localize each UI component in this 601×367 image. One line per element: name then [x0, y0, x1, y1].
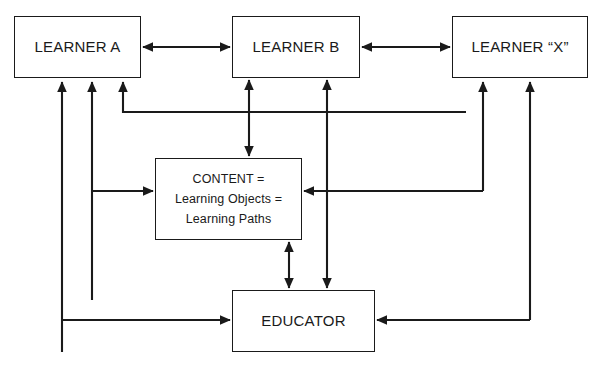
- node-learner-b-label: LEARNER B: [253, 39, 340, 55]
- node-content-label-line-2: Learning Objects =: [175, 189, 282, 209]
- node-educator[interactable]: EDUCATOR: [232, 290, 375, 352]
- edge-learner-x-to-learner-a: [123, 82, 466, 112]
- node-content[interactable]: CONTENT = Learning Objects = Learning Pa…: [155, 158, 302, 240]
- diagram-canvas: LEARNER A LEARNER B LEARNER “X” CONTENT …: [0, 0, 601, 367]
- node-content-label-line-1: CONTENT =: [193, 169, 265, 189]
- node-learner-b[interactable]: LEARNER B: [232, 16, 360, 78]
- node-content-label-line-3: Learning Paths: [186, 209, 272, 229]
- node-learner-x[interactable]: LEARNER “X”: [452, 16, 588, 78]
- node-educator-label: EDUCATOR: [261, 313, 345, 329]
- node-learner-a-label: LEARNER A: [35, 39, 121, 55]
- node-learner-x-label: LEARNER “X”: [471, 39, 568, 55]
- node-learner-a[interactable]: LEARNER A: [14, 16, 141, 78]
